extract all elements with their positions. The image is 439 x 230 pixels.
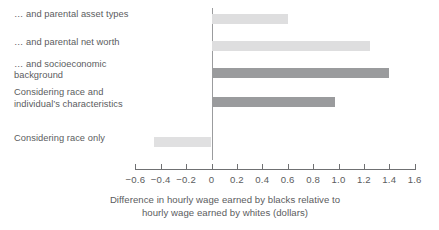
x-axis-title-line2: hourly wage earned by whites (dollars) [60,207,390,220]
category-label-race-only: Considering race only [14,133,204,145]
x-axis-tick [313,164,314,170]
x-axis-tick [262,164,263,170]
x-axis-tick [339,164,340,170]
x-axis-tick [389,164,390,170]
x-axis-tick [237,164,238,170]
plot-area: … and parental asset types … and parenta… [0,0,439,175]
x-axis-tick [212,164,213,170]
x-axis-line [135,169,414,170]
category-label-race-and-individual-characteristics: Considering race and individual’s charac… [14,87,204,110]
category-label-parental-asset-types: … and parental asset types [14,9,204,21]
x-axis-tick [135,164,136,170]
x-axis-tick [161,164,162,170]
x-axis-tick [288,164,289,170]
x-axis-tick [364,164,365,170]
bar-race-and-individual-characteristics [212,97,335,107]
category-label-socioeconomic-background: … and socioeconomic background [14,59,204,82]
bar-parental-net-worth [212,41,371,51]
x-axis-tick-label: 1.6 [398,174,432,186]
x-axis-title-line1: Difference in hourly wage earned by blac… [110,194,340,205]
zero-reference-line [212,8,213,160]
x-axis-title: Difference in hourly wage earned by blac… [60,194,390,219]
bar-socioeconomic-background [212,68,390,78]
x-axis-tick [186,164,187,170]
category-label-parental-net-worth: … and parental net worth [14,37,204,49]
bar-chart-figure: … and parental asset types … and parenta… [0,0,439,230]
x-axis-tick [415,164,416,170]
bar-parental-asset-types [212,14,288,24]
